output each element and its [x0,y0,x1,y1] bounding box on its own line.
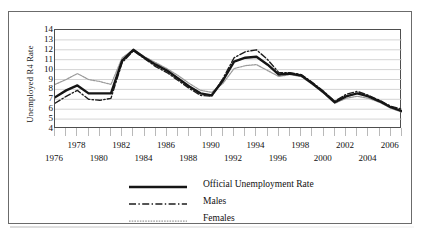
x-tick-mark [76,128,77,136]
x-tick-mark [233,128,234,136]
x-tick-mark [345,128,346,136]
x-tick-label: 2004 [358,153,376,163]
x-tick-mark [367,128,368,136]
x-tick-mark [267,128,268,136]
y-tick-label: 13 [35,34,53,43]
x-tick-label: 2000 [314,153,332,163]
x-tick-label: 1988 [179,153,197,163]
legend-item-males: Males [127,195,367,212]
x-tick-mark [334,128,335,136]
x-tick-mark [132,128,133,136]
x-tick-mark [278,128,279,136]
chart-legend: Official Unemployment Rate Males Females [127,178,367,229]
data-series-line [55,50,402,112]
y-tick-label: 10 [35,64,53,73]
y-tick-label: 4 [35,124,53,133]
y-tick-label: 14 [35,25,53,34]
x-tick-label: 2002 [336,140,354,150]
x-tick-mark [323,128,324,136]
x-tick-mark [200,128,201,136]
x-axis-ticks [54,128,401,137]
legend-label-official: Official Unemployment Rate [203,179,314,189]
x-tick-label: 1976 [45,153,63,163]
x-tick-mark [379,128,380,136]
x-tick-label: 1984 [135,153,153,163]
x-tick-mark [255,128,256,136]
x-tick-label: 1978 [67,140,85,150]
x-axis-tick-labels: 1978198219861990199419982002200619761980… [54,140,401,166]
data-series-line [55,50,402,111]
y-tick-label: 12 [35,44,53,53]
x-tick-mark [166,128,167,136]
x-tick-mark [144,128,145,136]
x-tick-mark [54,128,55,136]
plot-area-wrapper [54,29,401,139]
x-tick-mark [311,128,312,136]
series-canvas [55,30,402,129]
x-tick-label: 1986 [157,140,175,150]
x-tick-mark [88,128,89,136]
figure-panel: Unemployed R4 Rate 1413121110987654 1978… [8,11,412,224]
y-tick-label: 5 [35,114,53,123]
x-tick-mark [211,128,212,136]
legend-label-females: Females [203,213,235,223]
x-tick-mark [65,128,66,136]
x-tick-label: 1990 [202,140,220,150]
x-tick-label: 1992 [224,153,242,163]
x-tick-mark [155,128,156,136]
x-tick-label: 1980 [90,153,108,163]
legend-key-dash-dot-line-icon [127,195,189,212]
x-tick-label: 1994 [246,140,264,150]
x-tick-mark [356,128,357,136]
x-tick-mark [300,128,301,136]
x-tick-label: 2006 [381,140,399,150]
legend-item-official: Official Unemployment Rate [127,178,367,195]
x-tick-mark [99,128,100,136]
legend-label-males: Males [203,196,226,206]
y-tick-label: 11 [35,54,53,63]
page-edge-artifact [10,226,414,228]
x-tick-mark [289,128,290,136]
x-tick-label: 1982 [112,140,130,150]
x-tick-mark [121,128,122,136]
y-axis-title-text: Unemployed R4 Rate [25,45,35,122]
plot-area [54,29,401,128]
x-tick-label: 1996 [269,153,287,163]
x-tick-label: 1998 [291,140,309,150]
x-tick-mark [177,128,178,136]
y-tick-label: 7 [35,94,53,103]
x-tick-mark [222,128,223,136]
x-tick-mark [390,128,391,136]
x-tick-mark [401,128,402,136]
x-tick-mark [110,128,111,136]
legend-key-solid-line-icon [127,178,189,195]
y-axis-tick-labels: 1413121110987654 [35,29,53,129]
y-tick-label: 6 [35,104,53,113]
x-tick-mark [188,128,189,136]
x-tick-mark [244,128,245,136]
y-tick-label: 8 [35,84,53,93]
y-tick-label: 9 [35,74,53,83]
